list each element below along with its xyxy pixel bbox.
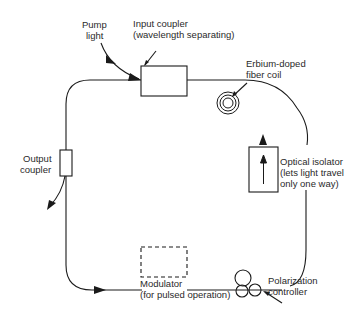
label-modulator: Modulator (for pulsed operation) <box>140 278 230 300</box>
polarization-controller-icon <box>235 270 261 297</box>
modulator-box <box>141 247 187 277</box>
label-optical-isolator: Optical isolator (lets light travel only… <box>280 156 347 189</box>
direction-arrow-icon <box>259 134 267 145</box>
input-coupler-box <box>141 66 187 96</box>
output-arrowhead-icon <box>47 200 56 210</box>
label-erbium-coil: Erbium-doped fiber coil <box>246 58 308 80</box>
label-pump-light: Pump light <box>82 19 109 41</box>
fiber-top-right <box>187 80 308 145</box>
fiber-laser-diagram: Pump light Input coupler (wavelength sep… <box>0 0 357 315</box>
loop-arrowhead-icon <box>94 286 106 294</box>
pump-arrowhead-icon <box>128 73 141 81</box>
erbium-coil-icon <box>217 92 239 114</box>
output-coupler-box <box>60 150 72 176</box>
label-polarization-controller: Polarization controller <box>268 275 320 297</box>
label-input-coupler: Input coupler (wavelength separating) <box>133 18 234 40</box>
label-output-coupler: Output coupler <box>20 153 54 175</box>
fiber-right <box>290 190 306 286</box>
